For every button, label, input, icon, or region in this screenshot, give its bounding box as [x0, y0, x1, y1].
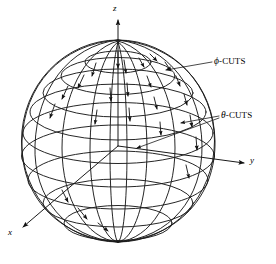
phi-cuts-leader — [166, 62, 212, 70]
coordinate-axes — [23, 20, 244, 227]
y-axis-line — [118, 146, 244, 163]
y-axis-label: y — [250, 156, 254, 165]
x-axis-label: x — [8, 228, 12, 237]
theta-cuts-text: -CUTS — [226, 110, 253, 120]
leader-lines — [137, 62, 219, 148]
sphere-illustration — [0, 0, 276, 264]
phi-cuts-text: -CUTS — [219, 56, 246, 66]
z-axis-label: z — [113, 4, 117, 13]
spherical-cuts-diagram: z y x ϕ-CUTS θ-CUTS — [0, 0, 276, 264]
theta-cuts-label: θ-CUTS — [221, 111, 252, 121]
phi-cuts-label: ϕ-CUTS — [214, 57, 246, 67]
